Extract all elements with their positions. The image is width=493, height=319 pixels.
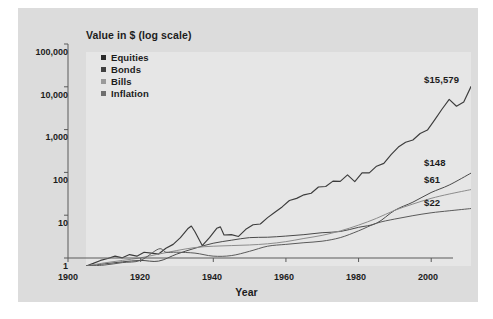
- chart-figure: Value in $ (log scale) 100,000 10,000 1,…: [0, 0, 493, 319]
- legend-label-equities: Equities: [111, 52, 149, 63]
- y-tick-label-10000: 10,000: [20, 90, 68, 100]
- chart-legend: Equities Bonds Bills Inflation: [101, 52, 149, 100]
- legend-swatch-icon: [101, 91, 106, 96]
- end-label-bills: $61: [424, 174, 440, 185]
- y-tick-label-1000: 1,000: [20, 132, 68, 142]
- x-axis-title: Year: [0, 286, 493, 298]
- legend-item-bonds: Bonds: [101, 64, 149, 76]
- chart-panel: Value in $ (log scale) 100,000 10,000 1,…: [18, 8, 478, 302]
- x-tick-label-1960: 1960: [261, 272, 307, 282]
- legend-label-inflation: Inflation: [111, 88, 149, 99]
- end-label-inflation: $22: [424, 197, 440, 208]
- y-tick-label-100000: 100,000: [20, 47, 68, 57]
- y-tick-label-1: 1: [20, 261, 68, 271]
- legend-label-bonds: Bonds: [111, 64, 141, 75]
- x-tick-label-1940: 1940: [189, 272, 235, 282]
- legend-item-equities: Equities: [101, 52, 149, 64]
- y-tick-label-100: 100: [20, 175, 68, 185]
- x-tick-label-1920: 1920: [117, 272, 163, 282]
- x-tick-label-1900: 1900: [45, 272, 91, 282]
- legend-item-inflation: Inflation: [101, 88, 149, 100]
- legend-item-bills: Bills: [101, 76, 149, 88]
- end-label-equities: $15,579: [424, 74, 459, 85]
- x-tick-label-2000: 2000: [405, 272, 451, 282]
- legend-label-bills: Bills: [111, 76, 132, 87]
- end-label-bonds: $148: [424, 157, 446, 168]
- legend-swatch-icon: [101, 79, 106, 84]
- legend-swatch-icon: [101, 67, 106, 72]
- y-tick-label-10: 10: [20, 218, 68, 228]
- axis-lines: [18, 8, 478, 302]
- legend-swatch-icon: [101, 55, 106, 60]
- x-tick-label-1980: 1980: [333, 272, 379, 282]
